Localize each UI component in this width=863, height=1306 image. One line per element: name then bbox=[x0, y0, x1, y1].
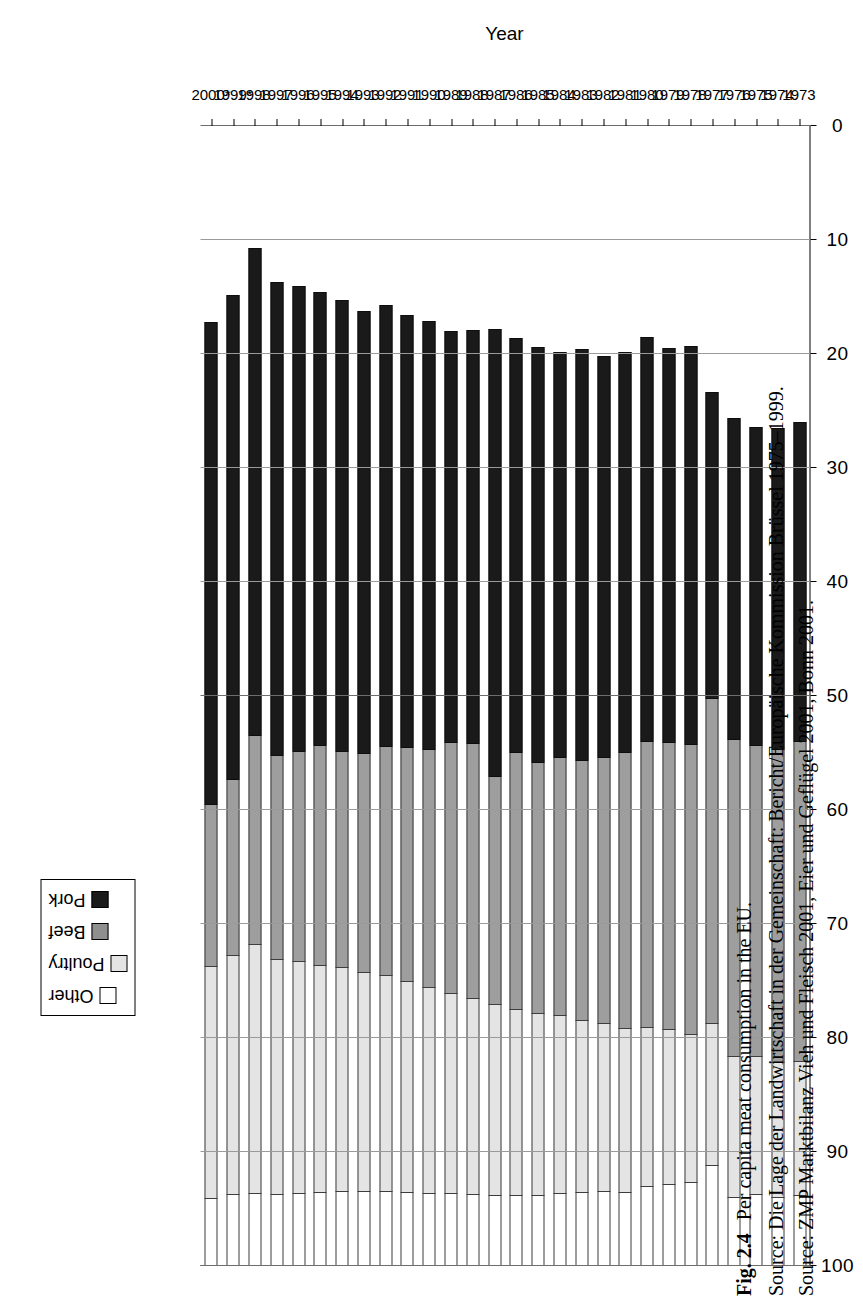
bar-segment-other bbox=[248, 1194, 261, 1266]
bar-segment-poultry bbox=[400, 982, 413, 1193]
bar-segment-other bbox=[379, 1192, 392, 1266]
bar-row bbox=[400, 126, 413, 1266]
bar-segment-beef bbox=[422, 750, 435, 988]
stacked-bar bbox=[248, 248, 261, 1266]
bar-segment-other bbox=[597, 1192, 610, 1266]
bar-row bbox=[313, 126, 326, 1266]
value-axis-label: 50 bbox=[815, 685, 859, 707]
bar-segment-beef bbox=[204, 805, 217, 967]
bar-segment-beef bbox=[379, 747, 392, 976]
bar-segment-poultry bbox=[597, 1024, 610, 1192]
legend-item-pork[interactable]: Pork bbox=[48, 889, 108, 910]
bar-segment-beef bbox=[335, 752, 348, 969]
stacked-bar bbox=[684, 346, 697, 1266]
category-tick bbox=[690, 119, 691, 126]
stacked-bar bbox=[313, 292, 326, 1266]
bar-segment-beef bbox=[488, 777, 501, 1005]
gridline bbox=[200, 125, 810, 126]
bar-segment-other bbox=[553, 1194, 566, 1266]
legend-item-poultry[interactable]: Poultry bbox=[48, 953, 127, 974]
bar-row bbox=[640, 126, 653, 1266]
stacked-bar bbox=[531, 347, 544, 1266]
category-tick bbox=[363, 119, 364, 126]
bar-row bbox=[335, 126, 348, 1266]
bar-segment-other bbox=[335, 1192, 348, 1266]
bar-segment-beef bbox=[531, 763, 544, 1014]
bar-segment-beef bbox=[248, 736, 261, 945]
bar-segment-poultry bbox=[488, 1005, 501, 1197]
bar-segment-other bbox=[488, 1196, 501, 1266]
value-axis-label: 20 bbox=[815, 343, 859, 365]
bar-segment-poultry bbox=[793, 1062, 806, 1197]
bar-segment-poultry bbox=[422, 988, 435, 1194]
category-tick bbox=[276, 119, 277, 126]
bar-segment-pork bbox=[531, 347, 544, 763]
category-tick bbox=[254, 119, 255, 126]
stacked-bar bbox=[335, 300, 348, 1266]
category-tick bbox=[734, 119, 735, 126]
stacked-bar bbox=[444, 331, 457, 1266]
value-axis-label: 30 bbox=[815, 457, 859, 479]
bar-segment-pork bbox=[444, 331, 457, 743]
gridline bbox=[200, 581, 810, 582]
bar-segment-beef bbox=[662, 743, 675, 1030]
bar-segment-poultry bbox=[618, 1029, 631, 1193]
bar-segment-pork bbox=[662, 348, 675, 742]
value-axis-label: 100 bbox=[815, 1255, 859, 1277]
stacked-bar bbox=[379, 305, 392, 1266]
value-axis-label: 40 bbox=[815, 571, 859, 593]
bar-segment-beef bbox=[444, 743, 457, 994]
bar-segment-other bbox=[466, 1195, 479, 1266]
gridline bbox=[200, 239, 810, 240]
bar-row bbox=[793, 126, 806, 1266]
bar-segment-pork bbox=[313, 292, 326, 746]
category-tick bbox=[712, 119, 713, 126]
bar-row bbox=[684, 126, 697, 1266]
bar-segment-pork bbox=[771, 428, 784, 749]
plot-area bbox=[200, 126, 810, 1266]
bar-segment-poultry bbox=[575, 1021, 588, 1193]
value-axis-label: 90 bbox=[815, 1141, 859, 1163]
bar-segment-beef bbox=[793, 742, 806, 1062]
bar-row bbox=[597, 126, 610, 1266]
bar-segment-beef bbox=[575, 761, 588, 1021]
category-tick bbox=[799, 119, 800, 126]
bar-segment-other bbox=[662, 1185, 675, 1266]
bar-row bbox=[771, 126, 784, 1266]
gridline bbox=[200, 923, 810, 924]
bar-row bbox=[357, 126, 370, 1266]
bar-segment-pork bbox=[379, 305, 392, 747]
category-tick bbox=[451, 119, 452, 126]
bar-segment-other bbox=[749, 1195, 762, 1266]
legend-item-other[interactable]: Other bbox=[48, 985, 116, 1006]
bar-segment-poultry bbox=[335, 968, 348, 1191]
stacked-bar bbox=[488, 329, 501, 1266]
plot-wrapper: OtherPoultryBeefPork 0102030405060708090… bbox=[0, 0, 863, 1306]
category-tick bbox=[581, 119, 582, 126]
gridline bbox=[200, 1265, 810, 1266]
bar-segment-other bbox=[292, 1194, 305, 1266]
legend-label: Poultry bbox=[48, 953, 104, 974]
bar-segment-poultry bbox=[705, 1024, 718, 1165]
bar-segment-beef bbox=[640, 742, 653, 1028]
bar-segment-poultry bbox=[270, 961, 283, 1196]
category-tick bbox=[559, 119, 560, 126]
x-axis-title: Year bbox=[469, 23, 539, 45]
bar-segment-poultry bbox=[292, 962, 305, 1195]
bar-segment-other bbox=[705, 1166, 718, 1266]
value-axis-label: 10 bbox=[815, 229, 859, 251]
bar-segment-beef bbox=[553, 758, 566, 1017]
category-tick bbox=[668, 119, 669, 126]
bar-segment-pork bbox=[204, 322, 217, 805]
bar-segment-pork bbox=[575, 349, 588, 761]
legend-item-beef[interactable]: Beef bbox=[48, 921, 108, 942]
bar-segment-poultry bbox=[466, 999, 479, 1195]
stacked-bar bbox=[270, 282, 283, 1266]
bar-segment-pork bbox=[422, 321, 435, 750]
bar-segment-other bbox=[531, 1196, 544, 1266]
bar-row bbox=[248, 126, 261, 1266]
value-axis-label: 60 bbox=[815, 799, 859, 821]
bar-segment-beef bbox=[727, 740, 740, 1057]
gridline bbox=[200, 695, 810, 696]
bar-segment-poultry bbox=[379, 976, 392, 1191]
